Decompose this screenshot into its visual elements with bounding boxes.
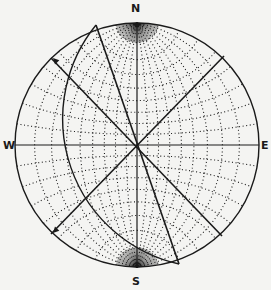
north-label: N [131, 3, 140, 14]
east-label: E [261, 140, 269, 151]
west-label: W [3, 140, 15, 151]
stereonet [0, 0, 271, 290]
south-label: S [132, 276, 140, 287]
